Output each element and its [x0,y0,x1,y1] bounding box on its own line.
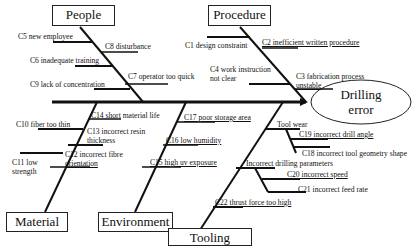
cause-c3: C3 fabrication process unstable [296,72,364,90]
cause-c8: C8 disturbance [105,42,151,51]
cause-c13: C13 incorrect resin thickness [87,127,145,145]
cause-c11-line-2: strength [12,167,38,176]
sub-cause-tool-wear: Tool wear [277,120,307,129]
cause-c11-line-1: C11 low [12,158,38,167]
cause-c11: C11 low strength [12,158,38,176]
cause-c22: C22 thrust force too high [215,198,291,207]
effect-label: Drilling error [314,87,408,117]
cause-c3-line-2: unstable [296,81,364,90]
category-environment: Environment [98,212,173,232]
cause-c18: C18 incorrect tool geometry shape [302,149,407,158]
cause-c21: C21 incorrect feed rate [298,185,368,194]
cause-c5: C5 new employee [18,32,73,41]
cause-c6: C6 inadequate training [30,56,99,65]
cause-c10: C10 fiber too thin [16,120,70,129]
cause-c15: C15 high uv exposure [150,158,217,167]
cause-c12-line-2: orientation [65,159,123,168]
cause-c9: C9 lack of concentration [30,80,105,89]
cause-c4-line-2: not clear [210,74,271,83]
cause-c17: C17 poor storage area [184,113,251,122]
category-material: Material [6,212,68,232]
cause-c1: C1 design constraint [185,41,247,50]
cause-c4-line-1: C4 work instruction [210,65,271,74]
sub-cause-drilling-parameters: Incorrect drilling parameters [246,159,333,168]
category-people: People [52,5,115,26]
cause-c14: C14 short material life [91,111,160,120]
cause-c13-line-2: thickness [87,136,145,145]
cause-c7: C7 operator too quick [128,72,194,81]
cause-c4: C4 work instruction not clear [210,65,271,83]
cause-c20: C20 incorrect speed [287,170,348,179]
category-tooling: Tooling [168,228,252,246]
cause-c13-line-1: C13 incorrect resin [87,127,145,136]
category-procedure: Procedure [208,5,271,26]
cause-c12: C12 incorrect fibre orientation [65,150,123,168]
cause-c12-line-1: C12 incorrect fibre [65,150,123,159]
effect-line-2: error [314,102,408,117]
cause-c2: C2 inefficient written procedure [262,38,360,47]
cause-c16: C16 low humidity [166,136,221,145]
cause-c19: C19 incorrect drill angle [299,130,373,139]
cause-c3-line-1: C3 fabrication process [296,72,364,81]
